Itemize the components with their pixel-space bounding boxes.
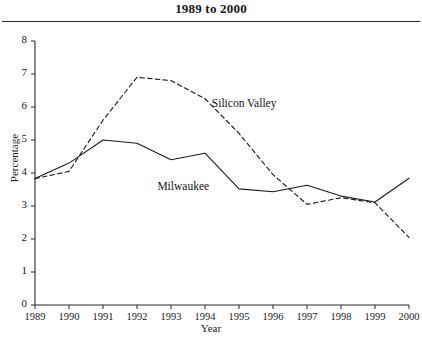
x-tick-label: 1994 xyxy=(188,311,222,322)
y-tick-label: 8 xyxy=(9,33,27,45)
x-tick-label: 1991 xyxy=(86,311,120,322)
y-tick-label: 5 xyxy=(9,132,27,144)
x-tick-label: 1993 xyxy=(154,311,188,322)
x-tick-label: 1989 xyxy=(18,311,52,322)
y-tick-label: 7 xyxy=(9,66,27,78)
y-tick-label: 6 xyxy=(9,99,27,111)
x-tick-label: 2000 xyxy=(392,311,422,322)
series-line-milwaukee xyxy=(35,140,409,202)
line-chart-plot xyxy=(0,0,422,342)
x-tick-label: 1997 xyxy=(290,311,324,322)
y-tick-label: 1 xyxy=(9,264,27,276)
y-axis-label: Percentage xyxy=(8,113,20,203)
y-tick-label: 2 xyxy=(9,231,27,243)
x-tick-label: 1995 xyxy=(222,311,256,322)
x-tick-label: 1998 xyxy=(324,311,358,322)
x-tick-label: 1992 xyxy=(120,311,154,322)
x-tick-label: 1990 xyxy=(52,311,86,322)
series-label-silicon-valley: Silicon Valley xyxy=(212,97,277,109)
y-tick-label: 0 xyxy=(9,297,27,309)
x-tick-label: 1999 xyxy=(358,311,392,322)
x-axis-label: Year xyxy=(0,322,422,334)
series-label-milwaukee: Milwaukee xyxy=(157,180,209,192)
chart-figure: 1989 to 2000 Percentage Year 012345678 1… xyxy=(0,0,422,342)
y-tick-label: 3 xyxy=(9,198,27,210)
y-tick-label: 4 xyxy=(9,165,27,177)
x-tick-label: 1996 xyxy=(256,311,290,322)
